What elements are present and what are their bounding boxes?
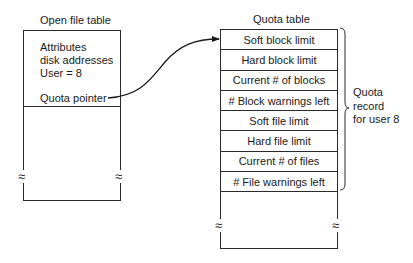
connector-overlay	[0, 0, 413, 263]
quota-record-brace	[340, 28, 349, 190]
quota-pointer-arrow	[108, 39, 219, 98]
